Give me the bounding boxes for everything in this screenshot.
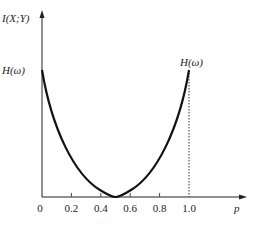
- tick-label: 0.2: [65, 202, 79, 214]
- chart: I(X;Y) H(ω) H(ω) p 0 0.2 0.4 0.6 0.8 1.0: [0, 0, 255, 227]
- tick-label: 0.4: [94, 202, 108, 214]
- x-axis-label: p: [233, 202, 240, 214]
- tick-label: 0.6: [123, 202, 137, 214]
- h-omega-right-label: H(ω): [179, 56, 203, 69]
- tick-label: 1.0: [182, 202, 196, 214]
- h-omega-left-label: H(ω): [1, 64, 25, 77]
- y-axis-arrow-icon: [40, 10, 45, 18]
- x-tick-labels: 0 0.2 0.4 0.6 0.8 1.0: [37, 202, 196, 214]
- tick-label: 0.8: [153, 202, 167, 214]
- x-axis-arrow-icon: [239, 195, 247, 200]
- y-axis-label: I(X;Y): [1, 12, 30, 25]
- tick-label: 0: [37, 202, 43, 214]
- mutual-information-curve: [42, 70, 189, 197]
